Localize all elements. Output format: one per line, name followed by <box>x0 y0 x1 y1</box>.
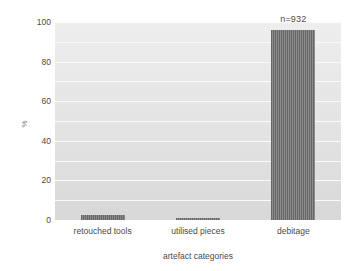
bar-chart-figure: n=932 % 020406080100 retouched toolsutil… <box>0 0 358 271</box>
y-tick-label: 100 <box>25 18 51 27</box>
gridline <box>55 22 341 23</box>
bar <box>271 30 315 220</box>
x-tick-label: debitage <box>233 226 353 236</box>
y-tick-label: 60 <box>25 97 51 106</box>
y-tick-label: 0 <box>25 216 51 225</box>
bar <box>176 218 220 220</box>
y-tick-label: 80 <box>25 58 51 67</box>
bar <box>81 215 125 220</box>
x-axis-title: artefact categories <box>55 251 341 261</box>
y-tick-label: 20 <box>25 176 51 185</box>
plot-area <box>55 22 341 220</box>
y-tick-label: 40 <box>25 137 51 146</box>
